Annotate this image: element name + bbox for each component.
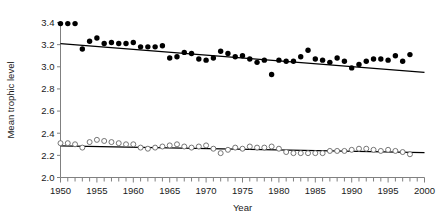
x-tick-label: 1960 (123, 185, 144, 196)
lower-series-point (160, 144, 165, 149)
lower-series-point (167, 143, 172, 148)
x-tick-label: 1990 (341, 185, 362, 196)
lower-series-point (291, 151, 296, 156)
upper-series-point (276, 57, 281, 62)
upper-series-point (240, 53, 245, 58)
lower-series-point (211, 146, 216, 151)
lower-series-point (109, 140, 114, 145)
lower-series-point (116, 141, 121, 146)
upper-series-point (233, 54, 238, 59)
upper-series-point (72, 21, 77, 26)
upper-series-point (385, 57, 390, 62)
lower-series-point (378, 148, 383, 153)
x-tick-label: 1950 (50, 185, 71, 196)
upper-series-point (262, 57, 267, 62)
y-tick-label: 2.4 (41, 128, 54, 139)
lower-series-point (269, 144, 274, 149)
lower-series-point (255, 145, 260, 150)
upper-series-point (349, 65, 354, 70)
upper-series-point (378, 56, 383, 61)
upper-series-point (167, 55, 172, 60)
upper-series-point (291, 59, 296, 64)
upper-series-point (152, 44, 157, 49)
lower-series-point (196, 144, 201, 149)
lower-series-point (58, 141, 63, 146)
lower-series-point (145, 146, 150, 151)
upper-series-point (80, 46, 85, 51)
lower-series-point (174, 142, 179, 147)
lower-series-point (182, 144, 187, 149)
upper-series-point (116, 41, 121, 46)
lower-series-point (335, 148, 340, 153)
axis-labels-group: 2.02.22.42.62.83.03.23.41950195519601965… (5, 17, 435, 213)
data-points-group (58, 21, 413, 157)
lower-series-point (225, 147, 230, 152)
y-tick-label: 3.0 (41, 61, 54, 72)
y-tick-label: 2.2 (41, 150, 54, 161)
upper-series-point (109, 40, 114, 45)
upper-series-point (138, 44, 143, 49)
y-tick-label: 2.8 (41, 83, 54, 94)
y-tick-label: 2.6 (41, 105, 54, 116)
upper-series-point (254, 60, 259, 65)
upper-series-point (305, 47, 310, 52)
upper-series-point (269, 72, 274, 77)
upper-series-point (218, 49, 223, 54)
lower-series-point (298, 151, 303, 156)
upper-series-point (94, 35, 99, 40)
lower-series-point (276, 146, 281, 151)
lower-series-point (65, 141, 70, 146)
lower-series-point (87, 140, 92, 145)
upper-series-point (364, 59, 369, 64)
axes-group (57, 23, 425, 183)
upper-series-point (211, 55, 216, 60)
lower-series-point (400, 150, 405, 155)
upper-series-point (298, 54, 303, 59)
upper-series-point (327, 60, 332, 65)
upper-series-point (356, 62, 361, 67)
lower-series-point (153, 145, 158, 150)
upper-series-point (313, 56, 318, 61)
upper-series-point (160, 43, 165, 48)
upper-series-point (371, 56, 376, 61)
upper-series-point (196, 56, 201, 61)
lower-series-point (284, 150, 289, 155)
lower-series-point (204, 143, 209, 148)
lower-series-point (306, 151, 311, 156)
upper-series-point (131, 40, 136, 45)
upper-series-point (58, 21, 63, 26)
upper-series-point (283, 59, 288, 64)
upper-series-point (145, 44, 150, 49)
lower-series-point (371, 147, 376, 152)
lower-series-point (407, 152, 412, 157)
x-axis-title: Year (233, 202, 252, 213)
x-tick-label: 1980 (268, 185, 289, 196)
y-tick-label: 3.2 (41, 39, 54, 50)
lower-series-point (131, 142, 136, 147)
upper-series-point (123, 41, 128, 46)
upper-series-point (182, 50, 187, 55)
lower-series-point (138, 145, 143, 150)
y-axis-title: Mean trophic level (5, 61, 16, 138)
lower-series-point (73, 142, 78, 147)
upper-series-point (342, 59, 347, 64)
lower-series-point (327, 148, 332, 153)
lower-series-point (124, 142, 129, 147)
upper-series-point (393, 53, 398, 58)
upper-series-point (400, 59, 405, 64)
lower-series-point (393, 148, 398, 153)
lower-series-point (218, 151, 223, 156)
lower-series-point (386, 147, 391, 152)
x-tick-label: 1955 (86, 185, 107, 196)
lower-series-point (80, 145, 85, 150)
x-tick-label: 1970 (196, 185, 217, 196)
lower-series-point (262, 145, 267, 150)
lower-series-point (364, 146, 369, 151)
upper-series-point (203, 57, 208, 62)
upper-series-point (247, 56, 252, 61)
chart-figure: 2.02.22.42.62.83.03.23.41950195519601965… (0, 0, 447, 213)
lower-series-point (94, 137, 99, 142)
x-tick-label: 1965 (159, 185, 180, 196)
x-tick-label: 2000 (414, 185, 435, 196)
lower-series-point (233, 145, 238, 150)
